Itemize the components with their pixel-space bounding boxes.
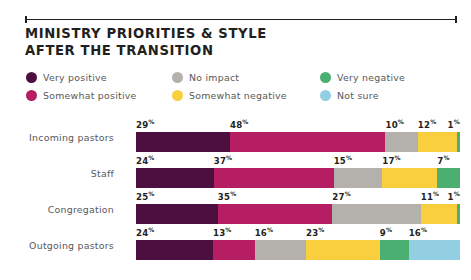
bar-segment-value-label: 10% <box>385 118 404 130</box>
bar-segment-value: 16 <box>409 228 421 238</box>
bar-segment-value: 13 <box>213 228 225 238</box>
chart-title-line-2: AFTER THE TRANSITION <box>25 43 445 60</box>
legend-item-label: Not sure <box>337 90 379 101</box>
bar-row: Staff24%37%15%17%7% <box>0 154 471 190</box>
legend-item-label: Somewhat positive <box>43 90 137 101</box>
header-rule <box>25 18 457 21</box>
bar-segment[interactable]: 7% <box>437 168 460 188</box>
bar-segment[interactable]: 35% <box>218 204 333 224</box>
bar-track: 29%48%10%12%1% <box>136 132 460 152</box>
bar-segment[interactable]: 13% <box>213 240 255 260</box>
bar-track: 24%37%15%17%7% <box>136 168 460 188</box>
percent-sign: % <box>386 226 392 233</box>
bar-segment[interactable]: 37% <box>214 168 334 188</box>
legend-item-label: No impact <box>189 72 239 83</box>
bar-segment-value: 15 <box>334 156 346 166</box>
percent-sign: % <box>454 190 460 197</box>
bar-segment-value-label: 9% <box>380 226 392 238</box>
bar-segment[interactable]: 27% <box>332 204 420 224</box>
legend-dot-icon <box>26 90 37 101</box>
bar-segment-value: 27 <box>332 192 344 202</box>
bar-row-label: Outgoing pastors <box>0 240 114 251</box>
percent-sign: % <box>148 226 154 233</box>
bar-segment-value-label: 37% <box>214 154 233 166</box>
bar-segment-value-label: 11% <box>421 190 440 202</box>
bar-row: Congregation25%35%27%11%1% <box>0 190 471 226</box>
legend-dot-icon <box>320 90 331 101</box>
bar-segment[interactable]: 12% <box>418 132 457 152</box>
bar-segment-value-label: 24% <box>136 226 155 238</box>
bar-segment-value-label: 16% <box>409 226 428 238</box>
percent-sign: % <box>242 118 248 125</box>
legend-item[interactable]: Somewhat negative <box>172 86 320 104</box>
legend-item[interactable]: Not sure <box>320 86 456 104</box>
bar-segment-value-label: 12% <box>418 118 437 130</box>
percent-sign: % <box>318 226 324 233</box>
bar-segment[interactable]: 11% <box>421 204 457 224</box>
bar-segment-value: 35 <box>218 192 230 202</box>
bar-segment-value-label: 29% <box>136 118 155 130</box>
bar-segment[interactable]: 17% <box>382 168 437 188</box>
bar-segment-value-label: 48% <box>230 118 249 130</box>
bar-segment[interactable]: 29% <box>136 132 230 152</box>
percent-sign: % <box>345 190 351 197</box>
legend-item[interactable]: Somewhat positive <box>26 86 172 104</box>
bar-segment[interactable]: 16% <box>255 240 306 260</box>
bar-track: 25%35%27%11%1% <box>136 204 460 224</box>
bar-segment[interactable]: 16% <box>409 240 460 260</box>
legend-item-label: Somewhat negative <box>189 90 287 101</box>
bar-segment-value-label: 13% <box>213 226 232 238</box>
bar-segment-value: 48 <box>230 120 242 130</box>
bar-row: Incoming pastors29%48%10%12%1% <box>0 118 471 154</box>
bar-segment[interactable]: 48% <box>230 132 386 152</box>
percent-sign: % <box>433 190 439 197</box>
bar-segment-value-label: 17% <box>382 154 401 166</box>
legend-item[interactable]: No impact <box>172 68 320 86</box>
bar-segment[interactable]: 25% <box>136 204 218 224</box>
percent-sign: % <box>267 226 273 233</box>
legend-dot-icon <box>172 90 183 101</box>
legend-item[interactable]: Very positive <box>26 68 172 86</box>
bar-segment-value: 37 <box>214 156 226 166</box>
header-rule-line <box>25 19 457 20</box>
bar-row: Outgoing pastors24%13%16%23%9%16% <box>0 226 471 262</box>
percent-sign: % <box>443 154 449 161</box>
percent-sign: % <box>148 154 154 161</box>
bar-segment[interactable]: 1% <box>457 132 460 152</box>
bar-segment-value: 25 <box>136 192 148 202</box>
bar-segment[interactable]: 24% <box>136 240 213 260</box>
bar-segment-value: 11 <box>421 192 433 202</box>
legend-item[interactable]: Very negative <box>320 68 456 86</box>
bar-segment-value-label: 15% <box>334 154 353 166</box>
bar-segment-value-label: 25% <box>136 190 155 202</box>
bar-segment[interactable]: 1% <box>457 204 460 224</box>
chart-title-line-1: MINISTRY PRIORITIES & STYLE <box>25 26 445 43</box>
percent-sign: % <box>225 226 231 233</box>
percent-sign: % <box>421 226 427 233</box>
bar-segment-value-label: 1% <box>448 190 460 202</box>
percent-sign: % <box>430 118 436 125</box>
bar-segment-value: 10 <box>385 120 397 130</box>
bar-segment-value: 12 <box>418 120 430 130</box>
percent-sign: % <box>230 190 236 197</box>
bar-row-label: Staff <box>0 168 114 179</box>
bar-segment-value: 23 <box>306 228 318 238</box>
bar-segment[interactable]: 9% <box>380 240 409 260</box>
bar-segment-value-label: 35% <box>218 190 237 202</box>
bar-segment[interactable]: 15% <box>334 168 383 188</box>
legend-item-label: Very positive <box>43 72 107 83</box>
legend-dot-icon <box>320 72 331 83</box>
bar-segment[interactable]: 23% <box>306 240 380 260</box>
bar-row-label: Incoming pastors <box>0 132 114 143</box>
bar-segment-value: 16 <box>255 228 267 238</box>
legend-item-label: Very negative <box>337 72 405 83</box>
bar-segment-value: 29 <box>136 120 148 130</box>
bar-track: 24%13%16%23%9%16% <box>136 240 460 260</box>
legend-dot-icon <box>172 72 183 83</box>
bar-segment[interactable]: 24% <box>136 168 214 188</box>
percent-sign: % <box>346 154 352 161</box>
bar-segment-value-label: 23% <box>306 226 325 238</box>
bar-segment[interactable]: 10% <box>385 132 417 152</box>
legend-dot-icon <box>26 72 37 83</box>
bar-segment-value-label: 27% <box>332 190 351 202</box>
